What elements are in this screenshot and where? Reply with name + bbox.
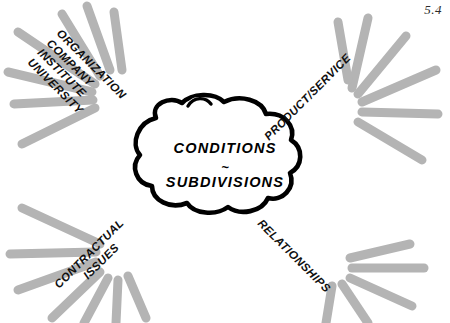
burst-top-right-icon — [338, 18, 438, 160]
cloud-label-subdivisions: SUBDIVISIONS — [0, 174, 450, 190]
figure-number: 5.4 — [424, 2, 442, 18]
cloud-label-separator: ~ — [0, 160, 450, 175]
cloud-label-conditions: CONDITIONS — [0, 140, 450, 156]
figure-canvas: 5.4 CONDITIONS ~ SUBDIVISIONS ORGANIZATI… — [0, 0, 450, 323]
burst-bottom-right-icon — [326, 244, 424, 323]
